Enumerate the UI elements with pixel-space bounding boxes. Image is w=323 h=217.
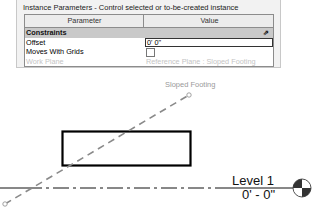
footing-rectangle[interactable] [63, 132, 191, 166]
drawing-canvas [0, 0, 323, 217]
level-name-label[interactable]: Level 1 [232, 173, 274, 188]
reference-plane-end-grip-icon[interactable] [187, 93, 191, 97]
reference-plane-label[interactable]: Sloped Footing [165, 80, 215, 89]
reference-plane-start-grip-icon[interactable] [3, 202, 7, 206]
level-head-icon[interactable] [293, 179, 311, 197]
level-elevation-label[interactable]: 0' - 0" [242, 187, 275, 202]
